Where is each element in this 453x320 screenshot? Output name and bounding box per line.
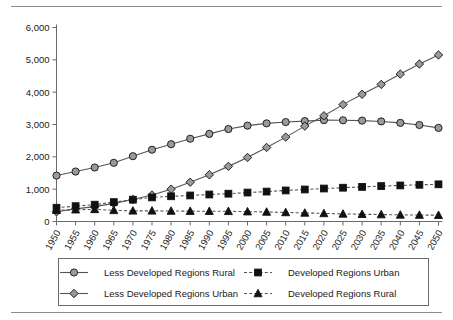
legend-square-marker-icon <box>255 269 262 276</box>
legend-entry-label: Less Developed Regions Rural <box>104 267 235 278</box>
legend-entry-label: Less Developed Regions Urban <box>104 288 238 299</box>
chart-legend: Less Developed Regions RuralDeveloped Re… <box>0 0 453 320</box>
legend-entry-label: Developed Regions Urban <box>288 267 399 278</box>
chart-figure: 01,0002,0003,0004,0005,0006,000195019551… <box>0 0 453 320</box>
legend-entry-label: Developed Regions Rural <box>288 288 396 299</box>
legend-circle-marker-icon <box>70 269 77 276</box>
